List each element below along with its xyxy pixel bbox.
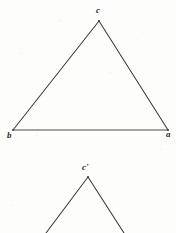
triangle-vertex-b bbox=[12, 129, 14, 131]
vertex-label-b: b bbox=[7, 131, 12, 140]
angle-left-leg bbox=[46, 177, 88, 233]
vertex-label-c: c bbox=[96, 6, 100, 15]
vertex-label-a: a bbox=[166, 130, 171, 139]
angle-vertex-c-prime bbox=[87, 176, 89, 178]
angle-right-leg bbox=[88, 177, 124, 233]
triangle-edge-ca bbox=[99, 21, 168, 130]
triangle-abc bbox=[12, 20, 169, 131]
vertex-label-c-prime: c' bbox=[82, 163, 89, 172]
angle-c-prime bbox=[46, 176, 124, 233]
triangle-vertex-c bbox=[98, 20, 100, 22]
triangle-edge-cb bbox=[13, 21, 99, 130]
figure-canvas bbox=[0, 0, 176, 233]
figure-page: c b a c' bbox=[0, 0, 176, 233]
